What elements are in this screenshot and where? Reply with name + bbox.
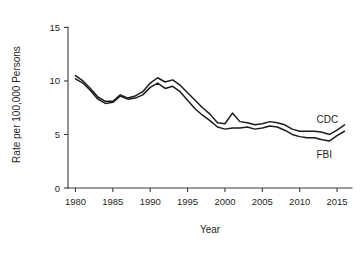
y-tick-label: 5 — [55, 129, 60, 140]
data-series-group — [75, 76, 344, 141]
x-axis-ticks: 19801985199019952000200520102015 — [65, 188, 348, 207]
series-label-cdc: CDC — [317, 114, 339, 125]
y-tick-label: 10 — [49, 75, 60, 86]
line-chart: 051015 19801985199019952000200520102015 … — [0, 0, 363, 253]
x-tick-label: 1995 — [177, 196, 198, 207]
y-tick-label: 0 — [55, 183, 60, 194]
x-tick-label: 1980 — [65, 196, 86, 207]
y-axis-ticks: 051015 — [49, 22, 68, 194]
x-tick-label: 1990 — [140, 196, 161, 207]
x-tick-label: 2015 — [326, 196, 347, 207]
x-tick-label: 1985 — [102, 196, 123, 207]
x-tick-label: 2000 — [214, 196, 235, 207]
series-line-cdc — [75, 76, 344, 135]
y-axis-title: Rate per 100,000 Persons — [11, 46, 22, 163]
series-label-fbi: FBI — [317, 149, 333, 160]
y-tick-label: 15 — [49, 22, 60, 33]
chart-figure: 051015 19801985199019952000200520102015 … — [0, 0, 363, 253]
x-tick-label: 2010 — [289, 196, 310, 207]
x-tick-label: 2005 — [252, 196, 273, 207]
x-axis-title: Year — [200, 224, 221, 235]
